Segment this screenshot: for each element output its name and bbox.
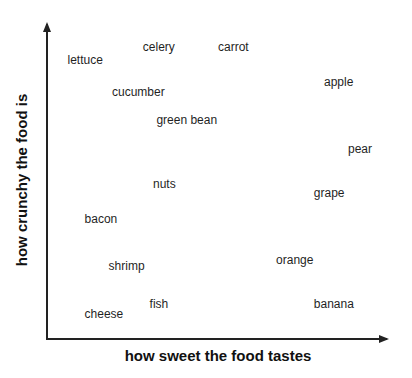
point-label-nuts: nuts: [153, 177, 176, 191]
point-label-celery: celery: [143, 40, 175, 54]
point-label-shrimp: shrimp: [109, 259, 145, 273]
point-label-carrot: carrot: [218, 40, 249, 54]
point-label-pear: pear: [348, 142, 372, 156]
point-label-cucumber: cucumber: [112, 85, 165, 99]
y-axis-label: how crunchy the food is: [13, 94, 30, 267]
point-label-bacon: bacon: [85, 212, 118, 226]
point-label-green-bean: green bean: [156, 113, 217, 127]
point-label-lettuce: lettuce: [68, 53, 103, 67]
point-label-grape: grape: [314, 186, 345, 200]
scatter-chart: [0, 0, 412, 378]
point-label-banana: banana: [314, 297, 354, 311]
point-label-fish: fish: [150, 297, 169, 311]
point-label-orange: orange: [276, 253, 313, 267]
point-label-apple: apple: [324, 75, 353, 89]
point-label-cheese: cheese: [85, 307, 124, 321]
x-axis-label: how sweet the food tastes: [47, 347, 389, 364]
